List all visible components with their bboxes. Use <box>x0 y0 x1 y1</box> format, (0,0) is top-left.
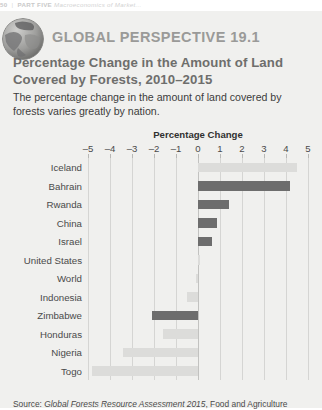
bar-row <box>88 325 308 344</box>
bar <box>196 274 198 284</box>
bar <box>198 218 217 228</box>
category-label: Nigeria <box>0 347 82 358</box>
plot-area <box>88 158 308 380</box>
figure-description: The percentage change in the amount of l… <box>13 90 309 118</box>
bar <box>198 200 229 210</box>
feature-header: GLOBAL PERSPECTIVE 19.1 <box>0 15 322 55</box>
bar <box>187 292 198 302</box>
bar-row <box>88 362 308 381</box>
category-label: Zimbabwe <box>0 310 82 321</box>
bar <box>198 255 200 265</box>
running-head-separator: | <box>10 1 16 8</box>
globe-icon <box>2 18 44 60</box>
source-title: Global Forests Resource Assessment 2015 <box>44 399 205 409</box>
x-tick-label: 0 <box>186 143 210 154</box>
x-tick-label: –5 <box>76 143 100 154</box>
source-prefix: Source: <box>13 399 42 409</box>
running-head-part: PART FIVE <box>17 1 52 8</box>
x-tick-label: –1 <box>164 143 188 154</box>
bar-row <box>88 306 308 325</box>
figure-title-line-1: Percentage Change in the Amount of Land <box>13 55 313 72</box>
x-tick-label: 5 <box>296 143 320 154</box>
category-label: World <box>0 273 82 284</box>
bar <box>123 348 198 358</box>
bar-row <box>88 343 308 362</box>
category-label: Togo <box>0 366 82 377</box>
axis-tick-mark <box>308 154 309 158</box>
bar <box>152 311 198 321</box>
running-head-page-number: 50 <box>0 1 7 8</box>
gridline <box>308 158 309 380</box>
bar <box>198 163 297 173</box>
x-tick-label: –2 <box>142 143 166 154</box>
x-tick-label: 4 <box>274 143 298 154</box>
bar <box>92 366 198 376</box>
figure-title-line-2: Covered by Forests, 2010–2015 <box>13 72 313 89</box>
category-label: Bahrain <box>0 181 82 192</box>
bar-row <box>88 195 308 214</box>
bar-row <box>88 288 308 307</box>
global-perspective-panel: GLOBAL PERSPECTIVE 19.1 Percentage Chang… <box>0 11 322 408</box>
running-head: 50 | PART FIVE Macroeconomics of Market.… <box>0 0 322 9</box>
bar-row <box>88 251 308 270</box>
x-tick-label: 1 <box>208 143 232 154</box>
bar-row <box>88 232 308 251</box>
category-label: Israel <box>0 236 82 247</box>
bar-row <box>88 269 308 288</box>
bar <box>198 181 290 191</box>
x-tick-label: –3 <box>120 143 144 154</box>
source-trailing: , Food and Agriculture <box>205 399 287 409</box>
category-labels: IcelandBahrainRwandaChinaIsraelUnited St… <box>0 158 82 388</box>
feature-label: GLOBAL PERSPECTIVE 19.1 <box>52 29 260 45</box>
category-label: Rwanda <box>0 199 82 210</box>
category-label: Iceland <box>0 162 82 173</box>
x-axis-title: Percentage Change <box>88 129 308 140</box>
category-label: China <box>0 218 82 229</box>
bar-row <box>88 158 308 177</box>
category-label: Indonesia <box>0 292 82 303</box>
bar-row <box>88 177 308 196</box>
bar <box>163 329 198 339</box>
x-tick-label: 3 <box>252 143 276 154</box>
category-label: Honduras <box>0 329 82 340</box>
bar <box>198 237 212 247</box>
x-tick-label: –4 <box>98 143 122 154</box>
figure-title: Percentage Change in the Amount of Land … <box>13 55 313 88</box>
category-label: United States <box>0 255 82 266</box>
running-head-subtitle: Macroeconomics of Market... <box>54 1 142 8</box>
x-tick-label: 2 <box>230 143 254 154</box>
bar-row <box>88 214 308 233</box>
source-note: Source: Global Forests Resource Assessme… <box>13 399 319 410</box>
